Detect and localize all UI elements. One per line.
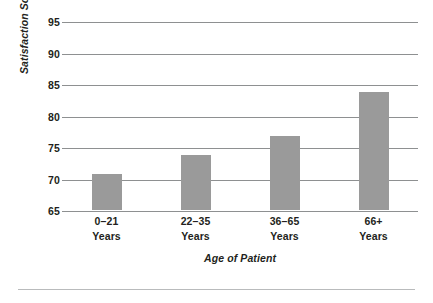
x-axis-tick-labels: 0–21Years22–35Years36–65Years66+Years bbox=[62, 214, 418, 256]
y-tick-label: 80 bbox=[30, 111, 60, 123]
plot-area bbox=[62, 22, 418, 211]
x-tick-label: 36–65Years bbox=[242, 214, 328, 244]
bottom-divider bbox=[18, 289, 415, 290]
x-tick-label-line1: 22–35 bbox=[181, 215, 211, 227]
bar-chart-figure: Satisfaction Score 95 90 85 80 75 70 65 … bbox=[0, 0, 433, 303]
x-tick-label-line2: Years bbox=[242, 229, 328, 244]
y-tick-label: 90 bbox=[30, 48, 60, 60]
x-tick-label-line1: 36–65 bbox=[270, 215, 300, 227]
bar bbox=[181, 155, 211, 210]
x-tick-label-line2: Years bbox=[64, 229, 150, 244]
y-tick-label: 95 bbox=[30, 16, 60, 28]
y-tick-label: 75 bbox=[30, 142, 60, 154]
x-tick-label-line2: Years bbox=[153, 229, 239, 244]
x-tick-label-line1: 0–21 bbox=[95, 215, 119, 227]
x-tick-label-line2: Years bbox=[331, 229, 417, 244]
y-tick-label: 65 bbox=[30, 205, 60, 217]
bar bbox=[359, 92, 389, 210]
x-tick-label-line1: 66+ bbox=[364, 215, 382, 227]
x-axis-title: Age of Patient bbox=[62, 252, 418, 264]
bar bbox=[270, 136, 300, 210]
bar-series bbox=[62, 22, 418, 211]
gridline bbox=[62, 211, 418, 212]
y-tick-label: 70 bbox=[30, 174, 60, 186]
x-tick-label: 22–35Years bbox=[153, 214, 239, 244]
x-tick-label: 0–21Years bbox=[64, 214, 150, 244]
bar bbox=[92, 174, 122, 210]
y-axis-tick-labels: 95 90 85 80 75 70 65 bbox=[30, 0, 60, 303]
y-tick-label: 85 bbox=[30, 79, 60, 91]
x-tick-label: 66+Years bbox=[331, 214, 417, 244]
